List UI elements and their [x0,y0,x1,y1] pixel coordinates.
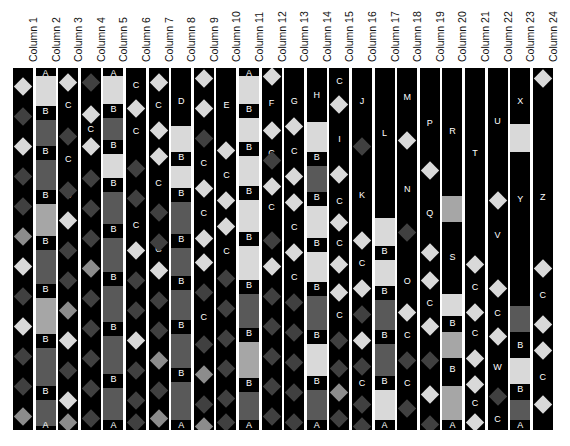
chart-column-14[interactable]: HBBBBBBA [307,68,327,430]
column-segment[interactable] [239,200,259,232]
diamond-marker[interactable] [82,73,100,91]
diamond-marker[interactable] [82,137,100,155]
diamond-marker[interactable] [82,229,100,247]
column-segment[interactable] [375,300,395,330]
column-segment[interactable] [103,154,123,178]
diamond-marker[interactable] [127,159,145,177]
diamond-marker[interactable] [217,359,235,377]
column-segment[interactable] [103,286,123,322]
column-segment[interactable] [375,390,395,420]
diamond-marker[interactable] [330,95,348,113]
diamond-marker[interactable] [127,301,145,319]
diamond-marker[interactable] [353,305,371,323]
chart-column-9[interactable]: CCC [194,68,214,430]
diamond-marker[interactable] [285,167,303,185]
diamond-marker[interactable] [421,271,439,289]
diamond-marker[interactable] [217,299,235,317]
column-segment[interactable] [239,246,259,280]
column-segment[interactable] [171,166,191,188]
diamond-marker[interactable] [534,341,552,359]
column-segment[interactable] [171,126,191,152]
chart-column-11[interactable]: ABBBBBBBA [239,68,259,430]
column-segment[interactable] [375,344,395,376]
column-segment[interactable] [307,122,327,152]
diamond-marker[interactable] [14,317,32,335]
chart-column-20[interactable]: RSBBA [442,68,462,430]
diamond-marker[interactable] [82,319,100,337]
diamond-marker[interactable] [59,361,77,379]
diamond-marker[interactable] [59,301,77,319]
diamond-marker[interactable] [421,385,439,403]
diamond-marker[interactable] [195,395,213,413]
chart-column-19[interactable]: PQC [420,68,440,430]
diamond-marker[interactable] [488,327,506,345]
column-segment[interactable] [510,358,530,384]
chart-column-6[interactable]: CCC [126,68,146,430]
diamond-marker[interactable] [59,331,77,349]
column-segment[interactable] [171,334,191,368]
diamond-marker[interactable] [534,69,552,87]
column-segment[interactable] [239,76,259,104]
diamond-marker[interactable] [195,417,213,430]
chart-column-15[interactable]: CCCCI [329,68,349,430]
column-segment[interactable] [307,344,327,376]
diamond-marker[interactable] [466,413,484,430]
diamond-marker[interactable] [466,375,484,393]
diamond-marker[interactable] [127,189,145,207]
diamond-marker[interactable] [466,349,484,367]
diamond-marker[interactable] [14,197,32,215]
column-segment[interactable] [103,76,123,104]
diamond-marker[interactable] [262,287,280,305]
column-segment[interactable] [36,348,56,386]
diamond-marker[interactable] [421,243,439,261]
diamond-marker[interactable] [421,317,439,335]
diamond-marker[interactable] [149,291,167,309]
diamond-marker[interactable] [82,259,100,277]
diamond-marker[interactable] [195,129,213,147]
diamond-marker[interactable] [149,203,167,221]
chart-column-16[interactable]: JKCC [352,68,372,430]
diamond-marker[interactable] [195,69,213,87]
diamond-marker[interactable] [421,415,439,430]
diamond-marker[interactable] [466,303,484,321]
column-segment[interactable] [375,260,395,286]
diamond-marker[interactable] [14,167,32,185]
diamond-marker[interactable] [127,413,145,430]
column-segment[interactable] [171,202,191,234]
column-segment[interactable] [307,252,327,282]
diamond-marker[interactable] [262,347,280,365]
diamond-marker[interactable] [285,293,303,311]
diamond-marker[interactable] [195,283,213,301]
diamond-marker[interactable] [149,351,167,369]
column-segment[interactable] [36,160,56,190]
diamond-marker[interactable] [285,243,303,261]
diamond-marker[interactable] [330,283,348,301]
diamond-marker[interactable] [127,391,145,409]
diamond-marker[interactable] [217,141,235,159]
column-segment[interactable] [103,118,123,140]
column-segment[interactable] [375,218,395,246]
column-segment[interactable] [36,204,56,236]
diamond-marker[interactable] [14,347,32,365]
diamond-marker[interactable] [127,99,145,117]
diamond-marker[interactable] [14,107,32,125]
diamond-marker[interactable] [82,409,100,427]
diamond-marker[interactable] [262,257,280,275]
chart-column-24[interactable]: ZCC [533,68,553,430]
column-segment[interactable] [307,206,327,238]
diamond-marker[interactable] [262,68,280,86]
column-segment[interactable] [442,332,462,358]
diamond-marker[interactable] [217,191,235,209]
diamond-marker[interactable] [14,287,32,305]
diamond-marker[interactable] [330,165,348,183]
diamond-marker[interactable] [398,131,416,149]
diamond-marker[interactable] [262,121,280,139]
column-segment[interactable] [239,156,259,186]
diamond-marker[interactable] [285,193,303,211]
diamond-marker[interactable] [195,365,213,383]
column-segment[interactable] [510,306,530,332]
diamond-marker[interactable] [353,357,371,375]
diamond-marker[interactable] [262,177,280,195]
diamond-marker[interactable] [149,147,167,165]
diamond-marker[interactable] [59,127,77,145]
